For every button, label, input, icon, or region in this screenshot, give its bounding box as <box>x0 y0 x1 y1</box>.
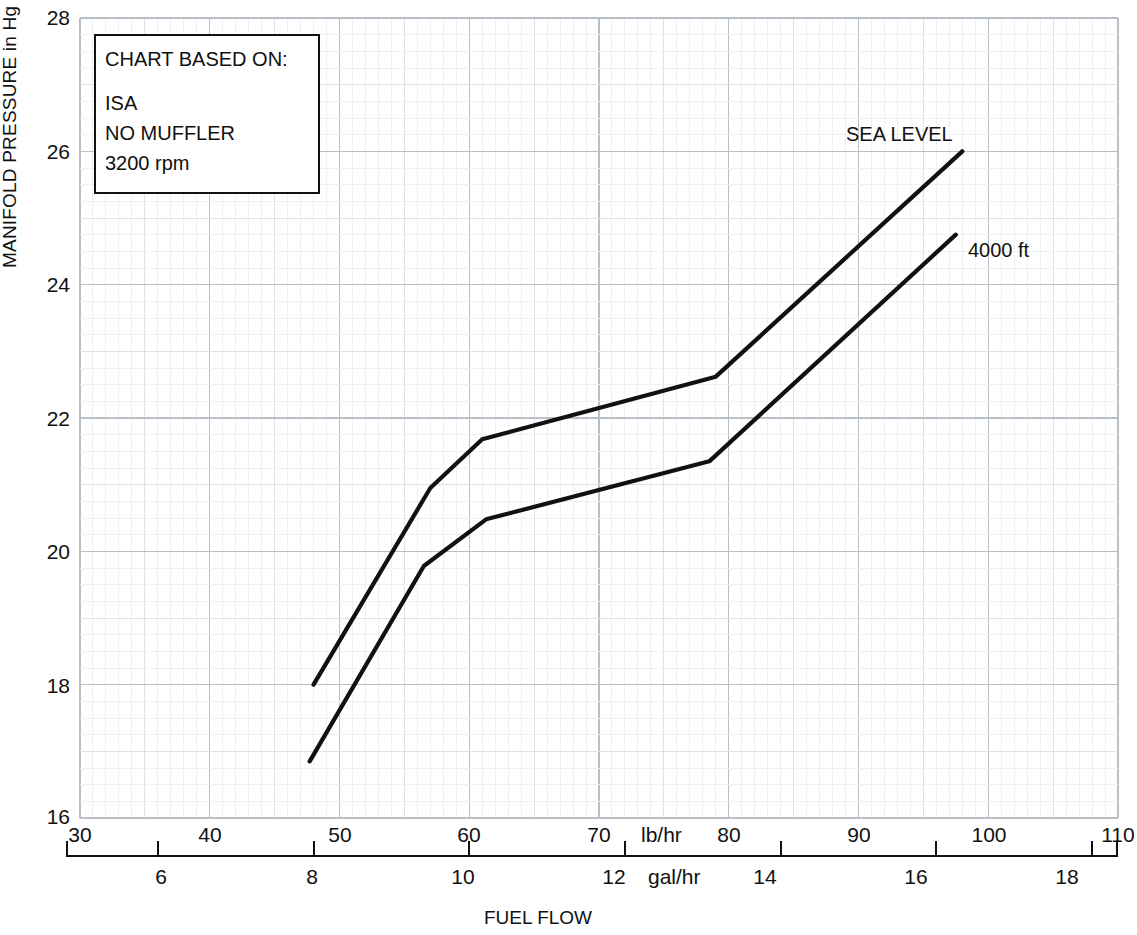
gal-hr-tick <box>1091 841 1093 857</box>
x-tick-gal-8: 8 <box>277 866 347 887</box>
chart-canvas: CHART BASED ON: ISA NO MUFFLER 3200 rpm … <box>0 0 1137 935</box>
x-unit-gal-hr: gal/hr <box>648 866 701 887</box>
y-axis-title: MANIFOLD PRESSURE in Hg <box>0 6 21 268</box>
y-tick-24: 24 <box>12 274 70 295</box>
x-tick-lb-50: 50 <box>305 824 375 845</box>
gal-hr-axis-endcap <box>1116 841 1118 857</box>
x-tick-gal-18: 18 <box>1032 866 1102 887</box>
curve-label-4000ft: 4000 ft <box>968 240 1029 260</box>
x-tick-lb-30: 30 <box>45 824 115 845</box>
x-tick-lb-100: 100 <box>954 824 1024 845</box>
curve-label-sea-level: SEA LEVEL <box>846 124 953 144</box>
gal-hr-tick <box>313 841 315 857</box>
gal-hr-tick <box>468 841 470 857</box>
gal-hr-axis-endcap <box>66 841 68 857</box>
note-line-muffler: NO MUFFLER <box>105 118 318 148</box>
note-line-isa: ISA <box>105 88 318 118</box>
note-line-rpm: 3200 rpm <box>105 148 318 178</box>
curve-4000ft <box>310 235 956 762</box>
x-tick-gal-6: 6 <box>126 866 196 887</box>
note-spacer <box>105 74 318 88</box>
y-tick-28: 28 <box>12 7 70 28</box>
gal-hr-tick <box>157 841 159 857</box>
gal-hr-tick <box>935 841 937 857</box>
chart-basis-note: CHART BASED ON: ISA NO MUFFLER 3200 rpm <box>94 34 320 194</box>
y-tick-26: 26 <box>12 141 70 162</box>
x-tick-gal-14: 14 <box>730 866 800 887</box>
x-tick-gal-10: 10 <box>428 866 498 887</box>
curve-sea-level <box>314 151 963 684</box>
gal-hr-tick <box>780 841 782 857</box>
x-tick-lb-40: 40 <box>175 824 245 845</box>
gal-hr-tick <box>624 841 626 857</box>
x-axis-title: FUEL FLOW <box>484 908 592 927</box>
y-tick-22: 22 <box>12 408 70 429</box>
x-unit-lb-hr: lb/hr <box>641 824 682 845</box>
x-tick-lb-80: 80 <box>694 824 764 845</box>
plot-area: CHART BASED ON: ISA NO MUFFLER 3200 rpm … <box>80 18 1118 818</box>
x-tick-gal-12: 12 <box>579 866 649 887</box>
note-heading: CHART BASED ON: <box>105 44 318 74</box>
gal-hr-axis-line <box>66 855 1118 857</box>
y-tick-20: 20 <box>12 541 70 562</box>
y-tick-18: 18 <box>12 675 70 696</box>
x-tick-lb-90: 90 <box>824 824 894 845</box>
x-tick-gal-16: 16 <box>881 866 951 887</box>
